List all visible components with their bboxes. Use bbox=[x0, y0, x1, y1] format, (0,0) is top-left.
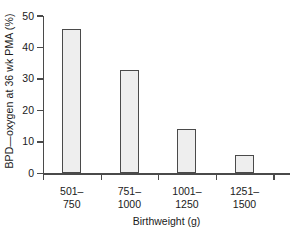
y-axis-tick bbox=[37, 15, 43, 16]
x-axis-tick-label-line: 1500 bbox=[213, 198, 277, 211]
x-axis-tick-label-line: 1250 bbox=[155, 198, 219, 211]
x-axis-tick-label-line: 1251– bbox=[213, 185, 277, 198]
x-axis-tick-label-line: 1000 bbox=[97, 198, 161, 211]
bar bbox=[177, 129, 196, 173]
x-axis-tick-label: 1001–1250 bbox=[155, 185, 219, 210]
x-axis-tick-label: 501–750 bbox=[40, 185, 104, 210]
x-axis-tick-label: 751–1000 bbox=[97, 185, 161, 210]
bar-chart-figure: BPD—oxygen at 36 wk PMA (%) 010203040505… bbox=[0, 0, 306, 236]
y-axis-line bbox=[43, 16, 44, 174]
x-axis-tick-label-line: 1001– bbox=[155, 185, 219, 198]
x-axis-tick bbox=[43, 174, 44, 180]
x-axis-tick bbox=[101, 174, 102, 180]
x-axis-tick-label-line: 750 bbox=[40, 198, 104, 211]
bar bbox=[235, 155, 254, 174]
y-axis-tick-label: 0 bbox=[8, 168, 34, 178]
bar bbox=[62, 29, 81, 174]
y-axis-tick-label: 10 bbox=[8, 136, 34, 146]
y-axis-tick bbox=[37, 110, 43, 111]
y-axis-tick bbox=[37, 141, 43, 142]
x-axis-line bbox=[43, 173, 290, 174]
y-axis-tick-label: 40 bbox=[8, 42, 34, 52]
y-axis-tick bbox=[37, 78, 43, 79]
y-axis-label: BPD—oxygen at 36 wk PMA (%) bbox=[1, 4, 17, 178]
y-axis-tick-label: 20 bbox=[8, 105, 34, 115]
y-axis-tick-label: 50 bbox=[8, 11, 34, 21]
x-axis-tick bbox=[158, 174, 159, 180]
bar bbox=[120, 70, 139, 174]
x-axis-label: Birthweight (g) bbox=[43, 215, 290, 227]
x-axis-tick bbox=[216, 174, 217, 180]
x-axis-tick bbox=[273, 174, 274, 180]
y-axis-tick-label: 30 bbox=[8, 73, 34, 83]
x-axis-tick-label: 1251–1500 bbox=[213, 185, 277, 210]
x-axis-tick-label-line: 751– bbox=[97, 185, 161, 198]
x-axis-tick-label-line: 501– bbox=[40, 185, 104, 198]
y-axis-tick bbox=[37, 47, 43, 48]
